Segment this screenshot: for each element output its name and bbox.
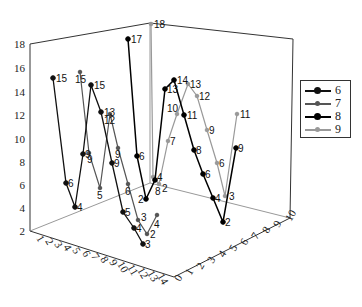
svg-text:12: 12 bbox=[199, 91, 211, 102]
z-axis-ticks: 18 16 14 12 10 8 6 4 2 bbox=[14, 38, 26, 237]
legend-item-8: 8 bbox=[301, 110, 350, 123]
svg-text:15: 15 bbox=[75, 74, 87, 85]
x-axis-ticks: 1 2 3 4 5 6 7 8 9 10 11 12 13 14 bbox=[34, 233, 171, 287]
svg-text:15: 15 bbox=[94, 80, 106, 91]
svg-text:6: 6 bbox=[125, 186, 131, 197]
svg-text:6: 6 bbox=[68, 178, 74, 189]
svg-text:2: 2 bbox=[225, 217, 231, 228]
depth-axis-ticks: 0 1 2 3 4 5 6 7 8 9 10 bbox=[171, 207, 298, 283]
svg-text:11: 11 bbox=[240, 109, 251, 120]
svg-text:4: 4 bbox=[77, 202, 83, 213]
svg-text:3: 3 bbox=[229, 191, 235, 202]
svg-text:11: 11 bbox=[187, 110, 198, 121]
chart-3d-plot: 18 16 14 12 10 8 6 4 2 1 2 3 4 5 6 7 8 9… bbox=[0, 0, 362, 307]
svg-text:4: 4 bbox=[136, 223, 142, 234]
legend-item-7: 7 bbox=[301, 97, 350, 110]
svg-text:2: 2 bbox=[162, 183, 168, 194]
svg-text:12: 12 bbox=[104, 115, 116, 126]
svg-text:7: 7 bbox=[170, 136, 176, 147]
svg-text:4: 4 bbox=[20, 202, 26, 214]
svg-text:3: 3 bbox=[141, 212, 147, 223]
svg-text:14: 14 bbox=[14, 86, 26, 98]
svg-text:5: 5 bbox=[125, 207, 131, 218]
svg-text:9: 9 bbox=[115, 149, 121, 160]
svg-text:7: 7 bbox=[248, 230, 261, 241]
svg-text:8: 8 bbox=[259, 224, 272, 235]
svg-text:5: 5 bbox=[226, 242, 239, 253]
svg-text:4: 4 bbox=[157, 172, 163, 183]
svg-text:18: 18 bbox=[154, 19, 166, 30]
series-6 bbox=[51, 76, 146, 247]
svg-text:6: 6 bbox=[219, 158, 225, 169]
marker-dot-icon bbox=[315, 101, 320, 106]
svg-text:0: 0 bbox=[171, 272, 184, 283]
svg-text:9: 9 bbox=[238, 143, 244, 154]
svg-text:3: 3 bbox=[145, 239, 151, 250]
svg-text:8: 8 bbox=[155, 186, 161, 197]
svg-text:16: 16 bbox=[14, 62, 26, 74]
legend: 6 7 8 9 bbox=[300, 80, 351, 138]
legend-item-6: 6 bbox=[301, 84, 350, 97]
svg-text:10: 10 bbox=[167, 103, 179, 114]
svg-text:2: 2 bbox=[20, 225, 26, 237]
marker-dot-icon bbox=[314, 87, 321, 94]
svg-text:6: 6 bbox=[237, 236, 250, 247]
svg-text:5: 5 bbox=[97, 190, 103, 201]
svg-text:10: 10 bbox=[14, 133, 26, 145]
svg-text:17: 17 bbox=[131, 34, 143, 45]
svg-text:12: 12 bbox=[14, 109, 25, 121]
svg-text:15: 15 bbox=[56, 73, 68, 84]
svg-text:1: 1 bbox=[182, 266, 195, 277]
svg-text:4: 4 bbox=[215, 193, 221, 204]
marker-dot-icon bbox=[315, 127, 320, 132]
svg-text:8: 8 bbox=[196, 145, 202, 156]
svg-text:2: 2 bbox=[138, 194, 144, 205]
svg-text:9: 9 bbox=[87, 154, 93, 165]
svg-text:8: 8 bbox=[20, 156, 26, 168]
svg-text:13: 13 bbox=[190, 79, 202, 90]
svg-text:2: 2 bbox=[150, 229, 156, 240]
svg-text:9: 9 bbox=[209, 125, 215, 136]
marker-dot-icon bbox=[314, 113, 321, 120]
svg-text:4: 4 bbox=[215, 248, 228, 259]
svg-text:6: 6 bbox=[205, 169, 211, 180]
legend-item-9: 9 bbox=[301, 123, 350, 136]
svg-text:4: 4 bbox=[154, 219, 160, 230]
svg-text:18: 18 bbox=[14, 38, 26, 50]
svg-text:6: 6 bbox=[139, 151, 145, 162]
svg-text:6: 6 bbox=[20, 179, 26, 191]
svg-text:14: 14 bbox=[177, 75, 189, 86]
